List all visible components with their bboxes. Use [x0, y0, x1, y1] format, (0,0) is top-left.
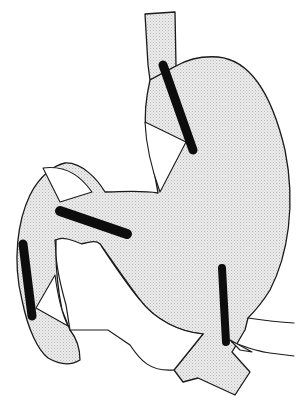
outflow-upper-line [248, 318, 294, 323]
band-pyloric [222, 268, 226, 342]
diagram-svg [0, 0, 298, 404]
stomach-diagram [0, 0, 298, 404]
